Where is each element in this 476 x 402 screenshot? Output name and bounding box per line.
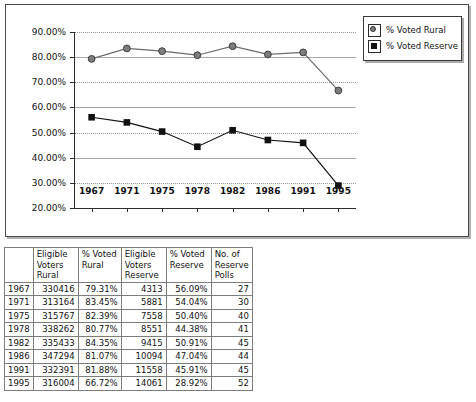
x-axis-tick-label: 1971 [107, 187, 147, 196]
data-point-square [229, 127, 236, 134]
cell-eligible-reserve: 5881 [121, 296, 166, 310]
cell-year: 1971 [5, 296, 34, 310]
data-table: Eligible Voters Rural % Voted Rural Elig… [4, 247, 253, 391]
table-row: 197531576782.39%755850.40%40 [5, 309, 253, 323]
data-point-circle [123, 45, 130, 52]
y-axis-tick-label: 20.00% [12, 204, 66, 213]
table-header-row: Eligible Voters Rural % Voted Rural Elig… [5, 248, 253, 283]
cell-pct-reserve: 54.04% [166, 296, 211, 310]
cell-pct-reserve: 50.91% [166, 336, 211, 350]
cell-eligible-reserve: 10094 [121, 350, 166, 364]
table-row: 199531600466.72%1406128.92%52 [5, 377, 253, 391]
cell-pct-reserve: 50.40% [166, 309, 211, 323]
cell-year: 1967 [5, 282, 34, 296]
x-tick [233, 208, 234, 212]
table-row: 199133239181.88%1155845.91%45 [5, 363, 253, 377]
data-point-square [194, 143, 201, 150]
cell-eligible-rural: 330416 [33, 282, 78, 296]
data-point-square [265, 137, 272, 144]
cell-pct-reserve: 28.92% [166, 377, 211, 391]
cell-pct-rural: 81.07% [78, 350, 121, 364]
cell-eligible-rural: 313164 [33, 296, 78, 310]
cell-reserve-polls: 40 [211, 309, 252, 323]
square-marker-icon [368, 40, 381, 53]
data-point-circle [264, 51, 271, 58]
x-tick [127, 208, 128, 212]
data-point-square [300, 140, 307, 147]
cell-year: 1975 [5, 309, 34, 323]
data-point-circle [300, 49, 307, 56]
chart-panel: 20.00%30.00%40.00%50.00%60.00%70.00%80.0… [5, 4, 469, 237]
cell-eligible-reserve: 7558 [121, 309, 166, 323]
table-row: 196733041679.31%431356.09%27 [5, 282, 253, 296]
y-axis-tick-label: 40.00% [12, 154, 66, 163]
y-axis-tick-label: 50.00% [12, 129, 66, 138]
cell-pct-rural: 83.45% [78, 296, 121, 310]
x-axis-tick-label: 1975 [142, 187, 182, 196]
data-point-square [88, 114, 95, 121]
col-header-reserve-polls: No. of Reserve Polls [211, 248, 252, 283]
y-axis-tick-label: 80.00% [12, 53, 66, 62]
cell-eligible-rural: 338262 [33, 323, 78, 337]
x-axis-tick-label: 1995 [318, 187, 358, 196]
cell-year: 1986 [5, 350, 34, 364]
y-axis-tick-label: 30.00% [12, 179, 66, 188]
series-line [92, 117, 339, 185]
table-row: 198233543384.35%941550.91%45 [5, 336, 253, 350]
cell-pct-rural: 81.88% [78, 363, 121, 377]
cell-reserve-polls: 44 [211, 350, 252, 364]
cell-year: 1995 [5, 377, 34, 391]
data-point-circle [194, 52, 201, 59]
x-tick [162, 208, 163, 212]
data-table-container: Eligible Voters Rural % Voted Rural Elig… [4, 247, 253, 391]
cell-reserve-polls: 41 [211, 323, 252, 337]
legend-item-rural: % Voted Rural [368, 23, 457, 38]
cell-pct-rural: 80.77% [78, 323, 121, 337]
series-layer [74, 32, 356, 208]
y-axis-tick-label: 70.00% [12, 78, 66, 87]
y-axis-tick-label: 60.00% [12, 103, 66, 112]
table-row: 198634729481.07%1009447.04%44 [5, 350, 253, 364]
x-axis-tick-label: 1978 [177, 187, 217, 196]
x-axis-tick-label: 1967 [72, 187, 112, 196]
cell-year: 1982 [5, 336, 34, 350]
x-tick [268, 208, 269, 212]
x-axis-line [74, 208, 356, 209]
cell-pct-reserve: 45.91% [166, 363, 211, 377]
cell-eligible-rural: 332391 [33, 363, 78, 377]
cell-eligible-rural: 315767 [33, 309, 78, 323]
cell-year: 1991 [5, 363, 34, 377]
cell-reserve-polls: 52 [211, 377, 252, 391]
cell-eligible-rural: 347294 [33, 350, 78, 364]
data-point-circle [335, 87, 342, 94]
cell-pct-rural: 79.31% [78, 282, 121, 296]
col-header-pct-reserve: % Voted Reserve [166, 248, 211, 283]
col-header-eligible-reserve: Eligible Voters Reserve [121, 248, 166, 283]
data-point-square [159, 128, 166, 135]
data-point-circle [159, 48, 166, 55]
cell-reserve-polls: 45 [211, 336, 252, 350]
cell-eligible-reserve: 4313 [121, 282, 166, 296]
data-point-square [124, 119, 131, 126]
cell-pct-reserve: 44.38% [166, 323, 211, 337]
screenshot-root: 20.00%30.00%40.00%50.00%60.00%70.00%80.0… [0, 0, 476, 402]
cell-eligible-reserve: 9415 [121, 336, 166, 350]
x-axis-tick-label: 1991 [283, 187, 323, 196]
y-tick [70, 208, 74, 209]
legend-label-rural: % Voted Rural [386, 26, 446, 35]
cell-pct-rural: 66.72% [78, 377, 121, 391]
cell-pct-rural: 84.35% [78, 336, 121, 350]
cell-eligible-rural: 316004 [33, 377, 78, 391]
cell-eligible-reserve: 11558 [121, 363, 166, 377]
table-row: 197833826280.77%855144.38%41 [5, 323, 253, 337]
cell-reserve-polls: 45 [211, 363, 252, 377]
legend-label-reserve: % Voted Reserve [386, 42, 458, 51]
cell-eligible-reserve: 8551 [121, 323, 166, 337]
col-header-eligible-rural: Eligible Voters Rural [33, 248, 78, 283]
cell-eligible-reserve: 14061 [121, 377, 166, 391]
circle-marker-icon [368, 24, 381, 37]
cell-eligible-rural: 335433 [33, 336, 78, 350]
chart-legend: % Voted Rural % Voted Reserve [363, 16, 462, 61]
table-body: 196733041679.31%431356.09%27197131316483… [5, 282, 253, 390]
x-axis-tick-label: 1982 [213, 187, 253, 196]
